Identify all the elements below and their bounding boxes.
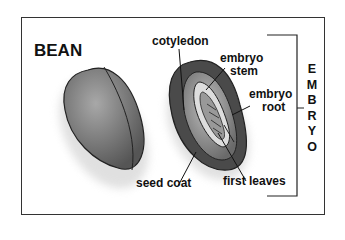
embryo-vertical-label: E M B R Y O [305, 62, 319, 155]
letter: E [305, 62, 319, 78]
letter: O [305, 140, 319, 156]
label-embryo-stem-line2: stem [230, 65, 258, 78]
letter: Y [305, 124, 319, 140]
letter: M [305, 78, 319, 94]
label-seed-coat: seed coat [136, 177, 191, 190]
label-embryo-root-line2: root [262, 101, 285, 114]
label-cotyledon: cotyledon [152, 35, 209, 48]
label-first-leaves: first leaves [223, 175, 286, 188]
letter: R [305, 109, 319, 125]
embryo-bracket [267, 35, 304, 196]
letter: B [305, 93, 319, 109]
